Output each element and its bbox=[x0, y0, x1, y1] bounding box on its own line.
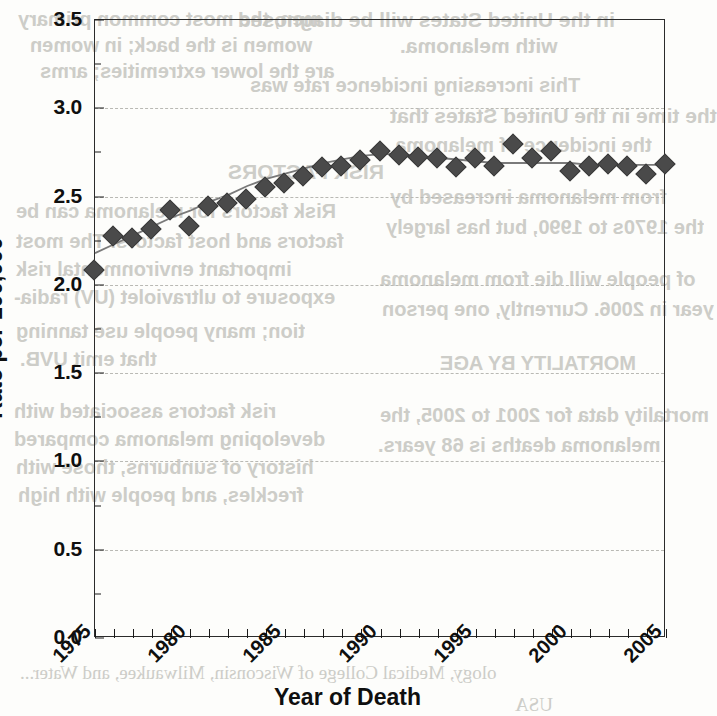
y-gridline bbox=[95, 550, 664, 551]
x-axis-tick bbox=[609, 629, 610, 638]
x-axis-tick bbox=[152, 629, 153, 638]
y-axis-tick-label: 3.0 bbox=[53, 95, 82, 119]
y-axis-tick-label: 2.5 bbox=[53, 184, 82, 208]
y-axis-tick bbox=[95, 196, 104, 197]
y-gridline bbox=[95, 197, 664, 198]
x-axis-tick bbox=[285, 629, 286, 638]
y-axis-tick bbox=[95, 108, 104, 109]
x-axis-tick bbox=[209, 629, 210, 638]
x-axis-tick bbox=[133, 629, 134, 638]
y-axis-tick bbox=[95, 638, 104, 639]
y-axis-minor-tick bbox=[95, 417, 101, 418]
y-gridline bbox=[95, 461, 664, 462]
y-axis-tick-label: 1.5 bbox=[53, 360, 82, 384]
x-axis-label: Year of Death bbox=[0, 684, 695, 711]
x-axis-tick bbox=[304, 629, 305, 638]
x-axis-tick bbox=[228, 629, 229, 638]
x-axis-tick bbox=[495, 629, 496, 638]
x-axis-tick bbox=[590, 629, 591, 638]
y-axis-label: Rate per 100,000 bbox=[0, 237, 8, 419]
x-axis-tick bbox=[628, 629, 629, 638]
x-axis-tick bbox=[247, 629, 248, 638]
x-axis-tick bbox=[400, 629, 401, 638]
y-axis-tick bbox=[95, 549, 104, 550]
plot-area bbox=[94, 19, 665, 637]
y-axis-minor-tick bbox=[95, 240, 101, 241]
y-gridline bbox=[95, 285, 664, 286]
x-axis-tick bbox=[419, 629, 420, 638]
y-axis-tick-label: 1.0 bbox=[53, 448, 82, 472]
x-axis-tick bbox=[114, 629, 115, 638]
x-axis-tick bbox=[533, 629, 534, 638]
y-axis-minor-tick bbox=[95, 64, 101, 65]
x-axis-tick bbox=[438, 629, 439, 638]
y-gridline bbox=[95, 108, 664, 109]
y-axis-tick bbox=[95, 461, 104, 462]
x-axis-tick bbox=[190, 629, 191, 638]
x-axis-tick bbox=[514, 629, 515, 638]
y-gridline bbox=[95, 373, 664, 374]
x-axis-tick bbox=[666, 629, 667, 638]
y-axis-minor-tick bbox=[95, 152, 101, 153]
y-axis-tick-label: 3.5 bbox=[53, 7, 82, 31]
trend-line bbox=[95, 20, 666, 638]
y-axis-tick bbox=[95, 373, 104, 374]
y-axis-tick-label: 0.5 bbox=[53, 537, 82, 561]
y-axis-tick bbox=[95, 284, 104, 285]
y-axis-minor-tick bbox=[95, 329, 101, 330]
y-axis-minor-tick bbox=[95, 505, 101, 506]
y-axis-tick bbox=[95, 20, 104, 21]
x-axis-tick bbox=[95, 629, 96, 638]
x-axis-tick bbox=[323, 629, 324, 638]
y-axis-minor-tick bbox=[95, 593, 101, 594]
x-axis-tick bbox=[342, 629, 343, 638]
y-axis-tick-label: 2.0 bbox=[53, 272, 82, 296]
trend-line-path bbox=[95, 154, 666, 253]
x-axis-tick bbox=[571, 629, 572, 638]
